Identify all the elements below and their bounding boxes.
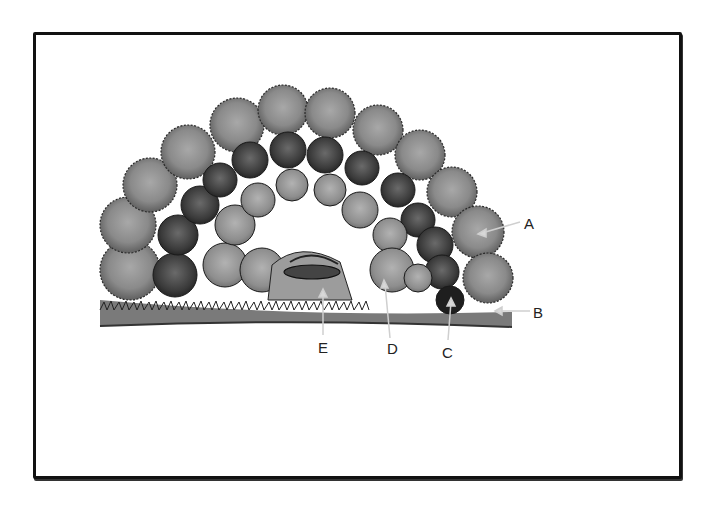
vegetation-illustration bbox=[0, 0, 713, 507]
label-a: A bbox=[524, 216, 534, 231]
label-e: E bbox=[318, 340, 328, 355]
fallen-log bbox=[284, 265, 340, 279]
label-b: B bbox=[533, 305, 543, 320]
label-d: D bbox=[387, 341, 398, 356]
label-c: C bbox=[442, 345, 453, 360]
